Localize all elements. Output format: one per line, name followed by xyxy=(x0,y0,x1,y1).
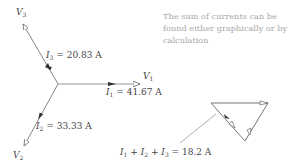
sum-triangle xyxy=(211,103,268,141)
i1-label: I1 = 41.67 A xyxy=(106,88,162,98)
explanation-note: The sum of currents can be found either … xyxy=(163,10,293,46)
sum-equation: I1 + I2 + I3 = 18.2 A xyxy=(120,148,211,158)
i3-label: I3 = 20.83 A xyxy=(46,51,102,61)
v2-label: V2 xyxy=(13,151,23,161)
i2-label: I2 = 33.33 A xyxy=(36,122,92,132)
v1-label: V1 xyxy=(143,72,153,82)
pointer-line xyxy=(180,114,216,143)
i1-arrow xyxy=(108,82,116,86)
v3-label: V3 xyxy=(16,8,26,18)
